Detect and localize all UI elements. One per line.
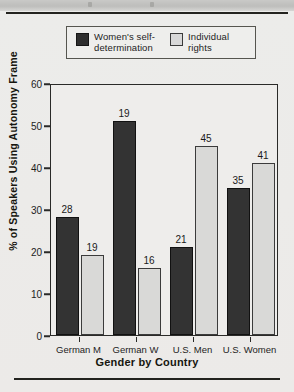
bar-womens-self-determination[interactable]: 28 [56, 217, 79, 335]
x-tick-mark [193, 337, 195, 342]
plot-area: 2819191621453541 [50, 84, 278, 336]
x-tick-mark [136, 337, 138, 342]
bar-womens-self-determination[interactable]: 35 [227, 188, 250, 335]
bar-chart: % of Speakers Using Autonomy Frame 60504… [0, 0, 294, 392]
bar-group: 2819 [56, 83, 104, 335]
y-axis-title: % of Speakers Using Autonomy Frame [7, 25, 19, 277]
bar-group: 3541 [227, 83, 275, 335]
bar-womens-self-determination[interactable]: 19 [113, 121, 136, 335]
bar-value-label: 21 [175, 234, 186, 245]
bar-group: 1916 [113, 83, 161, 335]
bar-individual-rights[interactable]: 19 [81, 255, 104, 335]
y-tick-label: 50 [20, 121, 42, 132]
bar-value-label: 41 [257, 150, 268, 161]
x-tick-label: U.S. Women [223, 344, 277, 355]
bar-group: 2145 [170, 83, 218, 335]
bar-value-label: 35 [232, 175, 243, 186]
bar-value-label: 16 [143, 255, 154, 266]
x-tick-label: U.S. Men [173, 344, 213, 355]
bar-womens-self-determination[interactable]: 21 [170, 247, 193, 335]
bar-value-label: 19 [118, 108, 129, 119]
bar-value-label: 28 [61, 204, 72, 215]
x-tick-mark [79, 337, 81, 342]
bar-individual-rights[interactable]: 41 [252, 163, 275, 335]
x-tick-mark [250, 337, 252, 342]
x-tick-label: German M [56, 344, 101, 355]
y-tick-label: 20 [20, 247, 42, 258]
y-tick-label: 0 [20, 331, 42, 342]
x-tick-label: German W [113, 344, 159, 355]
bar-value-label: 45 [200, 133, 211, 144]
y-tick-label: 40 [20, 163, 42, 174]
y-tick-label: 30 [20, 205, 42, 216]
x-axis-title: Gender by Country [0, 356, 294, 368]
y-tick-label: 10 [20, 289, 42, 300]
bar-value-label: 19 [86, 242, 97, 253]
y-tick-label: 60 [20, 79, 42, 90]
bar-individual-rights[interactable]: 45 [195, 146, 218, 335]
bar-individual-rights[interactable]: 16 [138, 268, 161, 335]
